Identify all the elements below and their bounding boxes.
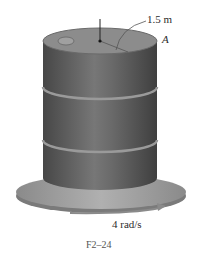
point-a-label: A — [162, 33, 169, 45]
figure-caption: F2–24 — [86, 239, 112, 250]
drum — [43, 19, 157, 190]
drum-diagram — [0, 0, 203, 256]
angular-velocity-label: 4 rad/s — [112, 218, 142, 230]
radius-label: 1.5 m — [147, 13, 172, 25]
